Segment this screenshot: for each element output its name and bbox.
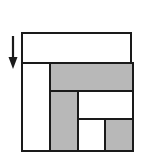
down-arrow-icon	[6, 35, 22, 71]
partition-cell-gray-column	[49, 90, 79, 152]
partition-cell-top-band	[21, 32, 132, 64]
partition-diagram	[21, 32, 132, 148]
partition-cell-bottom-gray-box	[104, 118, 134, 152]
partition-cell-left-column	[21, 62, 51, 152]
partition-cell-mid-right-box	[77, 90, 134, 120]
partition-cell-gray-band	[49, 62, 134, 92]
partition-cell-bottom-white-box	[77, 118, 106, 152]
figure-canvas	[0, 0, 141, 154]
